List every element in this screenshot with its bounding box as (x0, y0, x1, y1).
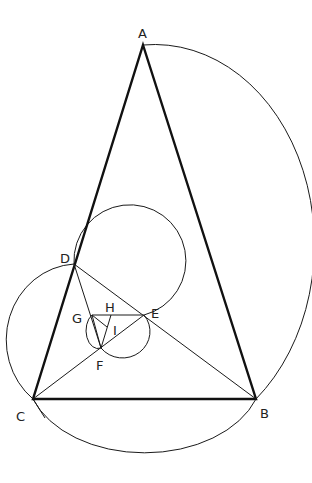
label-G: G (72, 311, 82, 326)
label-A: A (138, 26, 147, 41)
label-E: E (151, 306, 159, 321)
label-F: F (96, 358, 103, 373)
triangle-ABC (33, 45, 256, 399)
label-H: H (105, 300, 115, 315)
label-C: C (16, 409, 25, 424)
golden-triangle-diagram: A B C D E F G H I (0, 0, 312, 483)
label-B: B (260, 406, 269, 421)
construction-lines (33, 264, 256, 399)
label-I: I (113, 323, 117, 338)
label-D: D (60, 251, 70, 266)
